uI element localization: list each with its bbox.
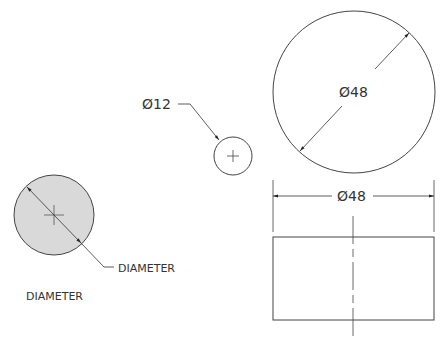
side-view: Ø48 (273, 180, 434, 339)
leader-line (178, 104, 219, 140)
large-diameter-label: Ø48 (339, 84, 368, 100)
side-view-rectangle (273, 237, 434, 320)
drawing-canvas: DIAMETER DIAMETER Ø12 Ø48 Ø48 (0, 0, 448, 351)
shaded-circle-view: DIAMETER DIAMETER (14, 175, 175, 303)
side-diameter-label: Ø48 (337, 188, 366, 204)
diameter-dimension-line (375, 33, 409, 69)
leader-label: DIAMETER (118, 262, 175, 275)
leader-line (81, 243, 114, 267)
small-circle-view: Ø12 (142, 96, 252, 175)
large-circle-view: Ø48 (273, 11, 435, 173)
caption-label: DIAMETER (26, 290, 83, 303)
small-diameter-label: Ø12 (142, 96, 171, 112)
